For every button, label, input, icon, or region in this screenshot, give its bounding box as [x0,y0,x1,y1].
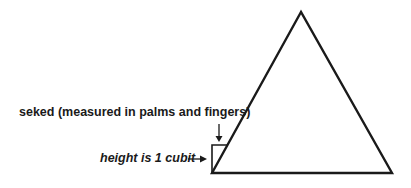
seked-label: seked (measured in palms and fingers) [19,105,250,119]
seked-arrow-head [216,136,223,142]
height-arrow-head [200,156,207,163]
seked-diagram: seked (measured in palms and fingers) he… [0,0,411,188]
height-label: height is 1 cubit [100,151,195,165]
pyramid-triangle [212,12,392,173]
pyramid-figure [0,0,411,188]
